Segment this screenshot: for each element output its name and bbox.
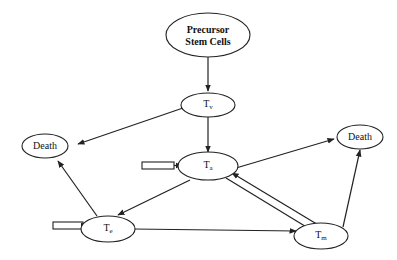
tv-label: Tv — [203, 98, 213, 111]
edge-te-to-tm — [133, 229, 296, 231]
precursor-label-line1: Precursor — [187, 24, 230, 35]
edge-ta-to-tm — [226, 178, 313, 231]
death-right-label: Death — [348, 131, 372, 143]
tv-sub: v — [209, 103, 213, 111]
death-left-label: Death — [33, 140, 57, 152]
ta-label: Ta — [203, 159, 212, 172]
te-label: Te — [103, 222, 112, 235]
tm-label: Tm — [315, 229, 327, 242]
precursor-label-line2: Stem Cells — [185, 35, 230, 46]
edge-tm-to-ta — [232, 173, 320, 226]
edge-ta-to-te — [118, 180, 190, 215]
edge-ta-to-death-right — [236, 139, 334, 168]
tm-sub: m — [321, 234, 326, 242]
ta-sub: a — [210, 164, 213, 172]
precursor-label: Precursor Stem Cells — [185, 24, 230, 47]
edge-te-to-death-left — [58, 161, 97, 216]
t-cell-dynamics-diagram: Precursor Stem Cells Tv Ta Te Tm Death D… — [0, 0, 397, 260]
external-input-ta — [142, 162, 182, 169]
edge-tv-to-death-left — [78, 108, 183, 144]
edge-tm-to-death-right — [343, 150, 360, 227]
te-sub: e — [110, 227, 113, 235]
